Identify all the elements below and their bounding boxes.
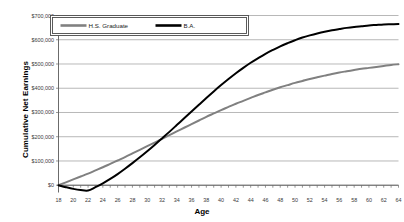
x-tick-label: 32: [159, 197, 165, 203]
x-tick-label: 42: [233, 197, 239, 203]
x-tick-label: 36: [189, 197, 195, 203]
x-tick-label: 50: [292, 197, 298, 203]
x-tick-label: 64: [396, 197, 402, 203]
x-tick-label: 40: [218, 197, 224, 203]
x-tick-label: 54: [322, 197, 328, 203]
x-tick-label: 38: [203, 197, 209, 203]
gridlines: [59, 16, 399, 193]
series-line-h-s-graduate: [59, 64, 399, 185]
y-tick-label: $100,000: [32, 158, 54, 164]
x-tick-label: 20: [70, 197, 76, 203]
y-tick-label: $200,000: [32, 134, 54, 140]
legend-label-ba: B.A.: [184, 22, 196, 29]
y-tick-label: $500,000: [32, 61, 54, 67]
x-tick-label: 58: [351, 197, 357, 203]
x-tick-label: 48: [277, 197, 283, 203]
x-tick-label: 18: [56, 197, 62, 203]
x-tick-label: 44: [248, 197, 254, 203]
chart-legend: H.S. GraduateB.A.: [51, 16, 249, 36]
x-tick-label: 60: [366, 197, 372, 203]
x-tick-label: 52: [307, 197, 313, 203]
x-axis-ticks: 1820222426283032343638404244464850525456…: [56, 185, 402, 203]
x-tick-label: 62: [381, 197, 387, 203]
earnings-line-chart: Cumulative Net Earnings Age $0$100,000$2…: [0, 0, 404, 222]
x-tick-label: 56: [336, 197, 342, 203]
x-tick-label: 24: [100, 197, 106, 203]
y-tick-label: $600,000: [32, 37, 54, 43]
x-tick-label: 26: [115, 197, 121, 203]
y-axis-ticks: $0$100,000$200,000$300,000$400,000$500,0…: [32, 13, 59, 189]
data-series: [59, 24, 399, 191]
plot-area: $0$100,000$200,000$300,000$400,000$500,0…: [0, 0, 404, 222]
x-tick-label: 34: [174, 197, 180, 203]
legend-label-hs-graduate: H.S. Graduate: [89, 22, 129, 29]
x-tick-label: 22: [85, 197, 91, 203]
x-tick-label: 46: [262, 197, 268, 203]
y-tick-label: $400,000: [32, 85, 54, 91]
x-tick-label: 28: [129, 197, 135, 203]
x-tick-label: 30: [144, 197, 150, 203]
y-tick-label: $0: [48, 182, 54, 188]
y-tick-label: $300,000: [32, 109, 54, 115]
